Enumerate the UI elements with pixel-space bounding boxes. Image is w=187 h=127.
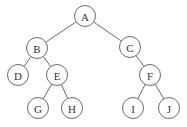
edge-e-g <box>43 84 52 99</box>
tree-node-e: E <box>47 65 68 86</box>
node-label: C <box>126 42 133 54</box>
tree-node-a: A <box>75 6 96 27</box>
edge-b-d <box>24 57 31 67</box>
node-label: H <box>68 103 76 115</box>
edge-b-e <box>43 56 51 66</box>
edge-c-f <box>136 56 144 67</box>
tree-node-f: F <box>140 65 161 86</box>
node-label: J <box>167 103 172 115</box>
node-label: A <box>81 11 89 23</box>
edge-a-b <box>46 22 77 42</box>
tree-node-i: I <box>123 98 144 119</box>
edge-f-j <box>155 84 164 99</box>
tree-edges <box>24 22 164 99</box>
tree-node-j: J <box>159 98 180 119</box>
tree-node-h: H <box>62 98 83 119</box>
tree-node-c: C <box>120 37 141 58</box>
edge-a-c <box>94 22 122 41</box>
edge-f-i <box>138 84 145 98</box>
tree-nodes: ABCDEFGHIJ <box>8 6 180 119</box>
node-label: B <box>33 43 40 55</box>
tree-node-b: B <box>27 38 48 59</box>
tree-node-d: D <box>8 65 29 86</box>
node-label: E <box>54 70 61 82</box>
node-label: F <box>147 70 153 82</box>
node-label: D <box>14 70 22 82</box>
node-label: G <box>34 103 42 115</box>
edge-e-h <box>61 85 67 99</box>
binary-tree-diagram: ABCDEFGHIJ <box>0 0 187 127</box>
node-label: I <box>131 103 135 115</box>
tree-node-g: G <box>28 98 49 119</box>
